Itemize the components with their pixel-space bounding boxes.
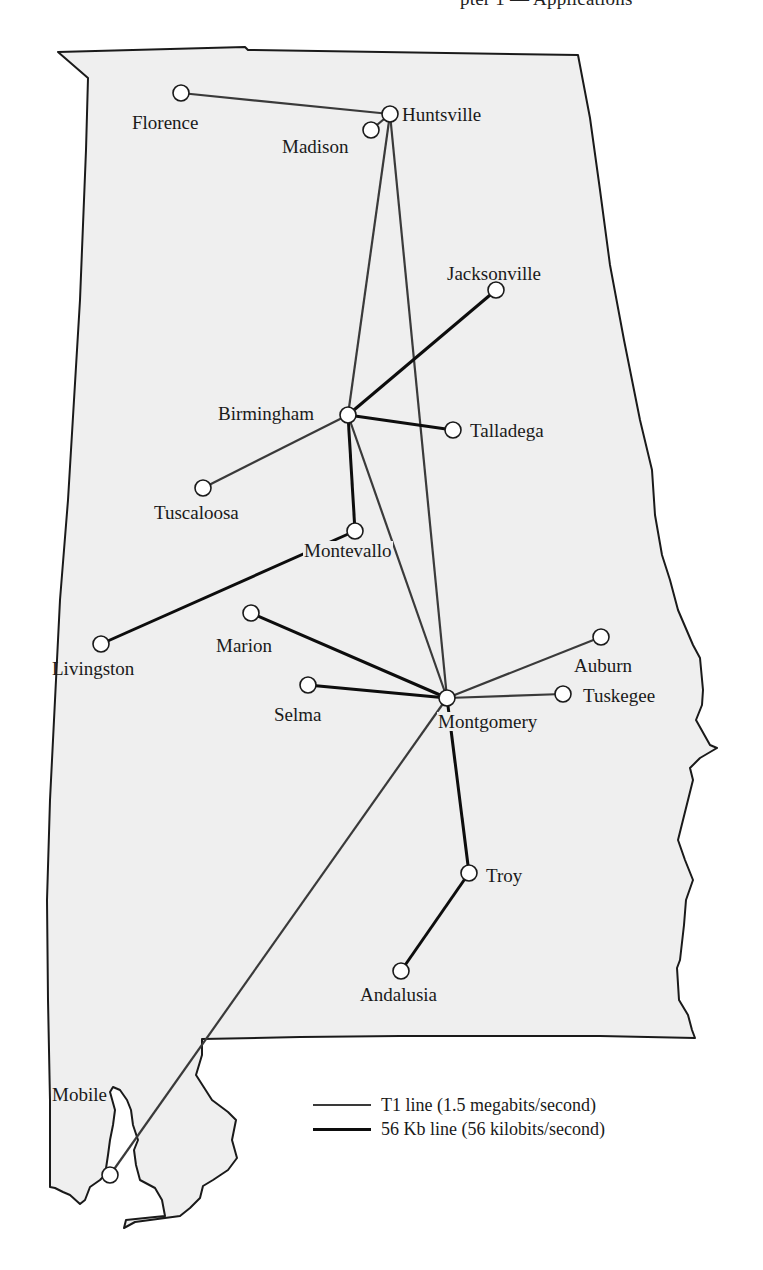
- t1-line-swatch: [313, 1104, 371, 1106]
- node-livingston: [93, 636, 109, 652]
- label-madison: Madison: [282, 137, 349, 156]
- legend-item-t1: T1 line (1.5 megabits/second): [313, 1093, 605, 1117]
- label-huntsville: Huntsville: [402, 105, 481, 124]
- label-auburn: Auburn: [574, 656, 632, 675]
- node-madison: [363, 122, 379, 138]
- node-talladega: [445, 422, 461, 438]
- node-montevallo: [347, 523, 363, 539]
- node-andalusia: [393, 963, 409, 979]
- legend: T1 line (1.5 megabits/second) 56 Kb line…: [313, 1093, 605, 1141]
- legend-label-t1: T1 line (1.5 megabits/second): [381, 1095, 596, 1116]
- node-tuskegee: [555, 686, 571, 702]
- state-outline-alabama: [47, 47, 717, 1228]
- legend-item-56kb: 56 Kb line (56 kilobits/second): [313, 1117, 605, 1141]
- label-tuscaloosa: Tuscaloosa: [154, 503, 239, 522]
- label-selma: Selma: [274, 705, 322, 724]
- node-selma: [300, 677, 316, 693]
- node-auburn: [593, 629, 609, 645]
- label-jacksonville: Jacksonville: [447, 264, 541, 283]
- label-troy: Troy: [486, 866, 522, 885]
- node-birmingham: [340, 407, 356, 423]
- label-mobile: Mobile: [52, 1085, 107, 1104]
- legend-label-56kb: 56 Kb line (56 kilobits/second): [381, 1119, 605, 1140]
- node-mobile: [102, 1167, 118, 1183]
- label-florence: Florence: [132, 113, 198, 132]
- label-birmingham: Birmingham: [218, 404, 314, 423]
- label-andalusia: Andalusia: [360, 985, 437, 1004]
- label-montgomery: Montgomery: [437, 712, 538, 731]
- alabama-network-map: [0, 0, 763, 1270]
- node-montgomery: [439, 690, 455, 706]
- node-florence: [173, 85, 189, 101]
- node-troy: [461, 865, 477, 881]
- label-montevallo: Montevallo: [303, 541, 393, 560]
- label-livingston: Livingston: [52, 659, 134, 678]
- label-talladega: Talladega: [470, 421, 544, 440]
- node-marion: [243, 605, 259, 621]
- label-marion: Marion: [216, 636, 272, 655]
- label-tuskegee: Tuskegee: [583, 686, 655, 705]
- node-tuscaloosa: [195, 480, 211, 496]
- node-huntsville: [382, 106, 398, 122]
- 56kb-line-swatch: [313, 1128, 371, 1131]
- node-jacksonville: [488, 282, 504, 298]
